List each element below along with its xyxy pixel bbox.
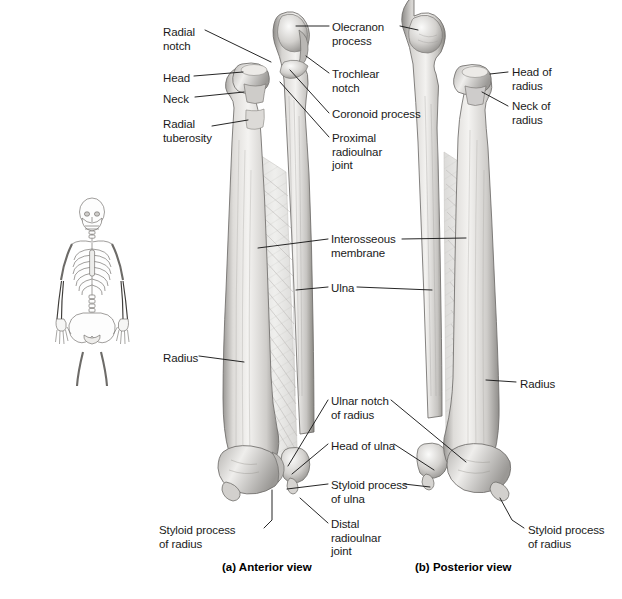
head-of-ulna-shape-posterior	[417, 443, 448, 478]
label-neck: Neck	[163, 93, 189, 107]
label-head-of-ulna: Head of ulna	[331, 440, 395, 454]
leader-distal-radioulnar-joint	[300, 498, 328, 523]
label-radius-left: Radius	[163, 352, 198, 366]
label-radial-tuberosity: Radial tuberosity	[163, 118, 212, 145]
caption-posterior-view: (b) Posterior view	[415, 561, 512, 573]
label-trochlear-notch: Trochlear notch	[332, 68, 379, 95]
posterior-ulna	[402, 0, 448, 490]
leader-trochlear-notch	[306, 56, 329, 73]
leader-head-of-radius	[490, 72, 508, 74]
posterior-view-bones	[402, 0, 511, 501]
leader-styloid-radius-left	[264, 490, 272, 528]
label-proximal-radioulnar-joint: Proximal radioulnar joint	[332, 132, 382, 173]
label-ulna: Ulna	[331, 282, 354, 296]
label-styloid-process-of-radius-left: Styloid process of radius	[159, 524, 235, 551]
anterior-view-bones	[218, 12, 314, 501]
label-olecranon-process: Olecranon process	[332, 21, 384, 48]
label-ulnar-notch-of-radius: Ulnar notch of radius	[331, 395, 389, 422]
label-distal-radioulnar-joint: Distal radioulnar joint	[331, 518, 381, 559]
leader-styloid-radius-right	[500, 498, 524, 528]
leader-radial-notch	[205, 30, 271, 62]
label-coronoid-process: Coronoid process	[332, 108, 421, 122]
neck-of-radius-shape-posterior	[465, 86, 486, 106]
label-radial-notch: Radial notch	[163, 26, 195, 53]
figure-canvas: Radial notch Head Neck Radial tuberosity…	[0, 0, 622, 599]
leader-ulna-right	[357, 287, 432, 290]
skeleton-orientation-figure	[56, 198, 130, 386]
head-of-ulna-shape	[281, 447, 310, 483]
label-interosseous-membrane: Interosseous membrane	[331, 233, 396, 260]
styloid-process-of-radius-shape-posterior	[490, 482, 509, 501]
label-neck-of-radius: Neck of radius	[512, 100, 550, 127]
label-head-of-radius: Head of radius	[512, 66, 552, 93]
caption-anterior-view: (a) Anterior view	[222, 561, 312, 573]
label-styloid-process-of-ulna: Styloid process of ulna	[331, 479, 407, 506]
neck-of-radius-shape-anterior	[244, 84, 266, 104]
radial-tuberosity-shape	[246, 109, 265, 129]
label-head: Head	[163, 72, 190, 86]
olecranon-process-shape-posterior	[409, 15, 443, 53]
label-radius-right: Radius	[520, 378, 555, 392]
label-styloid-process-of-radius-right: Styloid process of radius	[528, 524, 604, 551]
